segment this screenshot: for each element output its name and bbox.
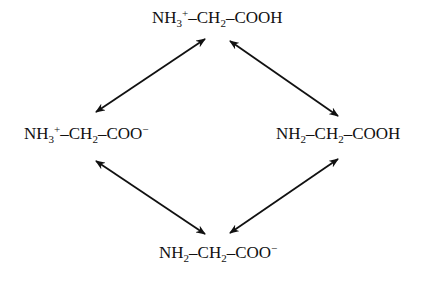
equilibrium-arrow-top-right xyxy=(230,41,338,116)
species-left-zwitterion: NH3+–CH2–COO− xyxy=(24,124,149,144)
equilibrium-arrow-left-top xyxy=(96,39,205,112)
equilibrium-arrow-left-bottom xyxy=(96,161,205,234)
species-bottom-anion: NH2–CH2–COO− xyxy=(159,243,277,263)
species-right-neutral-acid: NH2–CH2–COOH xyxy=(276,124,400,144)
equilibrium-arrow-bottom-right xyxy=(230,159,338,233)
species-top-cationic-acid: NH3+–CH2–COOH xyxy=(152,8,283,28)
